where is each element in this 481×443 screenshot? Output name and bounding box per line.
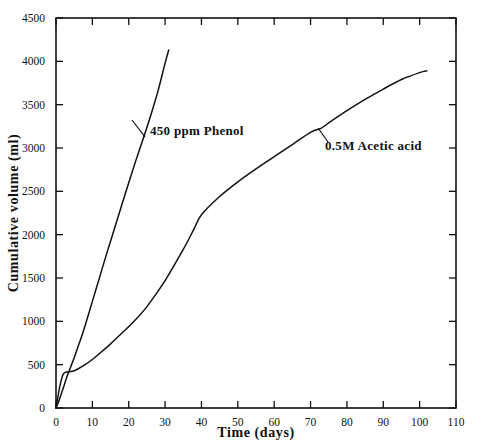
x-tick-label: 110 [448, 416, 465, 428]
series-annotation-label: 0.5M Acetic acid [325, 138, 422, 153]
y-tick-label: 4000 [22, 55, 45, 67]
x-tick-label: 90 [378, 416, 390, 428]
line-chart: 050010001500200025003000350040004500 010… [0, 0, 481, 443]
y-tick-label: 500 [28, 359, 46, 371]
x-tick-label: 10 [87, 416, 99, 428]
x-tick-label: 30 [159, 416, 171, 428]
plot-border [56, 18, 456, 408]
y-axis-title: Cumulative volume (ml) [6, 134, 22, 293]
y-tick-label: 2000 [22, 229, 45, 241]
y-axis-ticks: 050010001500200025003000350040004500 [22, 12, 456, 414]
x-tick-label: 20 [123, 416, 135, 428]
y-tick-label: 3000 [22, 142, 45, 154]
y-tick-label: 4500 [22, 12, 45, 24]
y-tick-label: 0 [39, 402, 45, 414]
series-line-450-ppm-phenol [56, 50, 169, 408]
annotations-group: 450 ppm Phenol0.5M Acetic acid [132, 120, 422, 153]
y-tick-label: 2500 [22, 185, 45, 197]
annotation-leader-line [132, 120, 145, 137]
x-tick-label: 80 [341, 416, 353, 428]
x-tick-label: 40 [196, 416, 208, 428]
series-annotation-label: 450 ppm Phenol [150, 123, 244, 138]
plot-frame [56, 18, 456, 408]
data-series-group [56, 50, 427, 408]
y-tick-label: 3500 [22, 99, 45, 111]
y-tick-label: 1500 [22, 272, 45, 284]
x-tick-label: 100 [411, 416, 429, 428]
chart-container: 050010001500200025003000350040004500 010… [0, 0, 481, 443]
x-axis-title: Time (days) [217, 425, 295, 441]
y-tick-label: 1000 [22, 315, 45, 327]
x-tick-label: 70 [305, 416, 317, 428]
x-tick-label: 0 [53, 416, 59, 428]
